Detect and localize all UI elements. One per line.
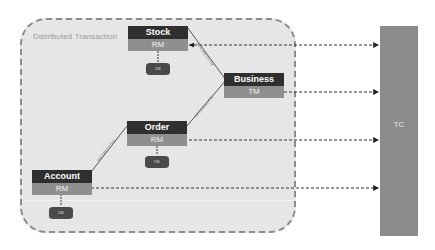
account-db-icon: DB [49,207,73,219]
edge-label-business-order: RPC/REST/TM [193,95,214,119]
tc-label: TC [380,120,418,129]
stock-db-icon: DB [146,63,170,75]
account-title: Account [32,170,92,183]
order-title: Order [127,121,187,134]
business-title: Business [224,73,284,86]
stock-title: Stock [128,26,188,39]
business-node: Business TM [224,73,284,98]
business-role: TM [224,86,284,98]
order-db-icon: DB [145,156,169,168]
tc-block: TC [380,26,418,236]
order-role: RM [127,134,187,146]
order-node: Order RM [127,121,187,146]
stock-node: Stock RM [128,26,188,51]
stock-role: RM [128,39,188,51]
edge-label-order-account: RPC/REST/TM [96,138,117,162]
account-role: RM [32,183,92,195]
account-node: Account RM [32,170,92,195]
